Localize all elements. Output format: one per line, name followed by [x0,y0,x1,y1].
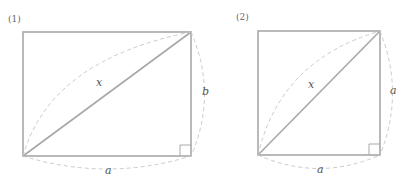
side-label-1: b [202,85,209,98]
bottom-label-1: a [105,164,112,177]
diagonal-label-2: x [308,78,315,91]
right-angle-marker-1 [180,145,191,156]
right-angle-marker-2 [369,144,380,155]
side-label-2: a [390,84,397,97]
diagonal-1 [23,32,191,156]
diagonal-label-1: x [96,76,103,89]
figure-2-number: (2) [236,12,249,22]
bottom-label-2: a [317,163,324,176]
diagonal-2 [258,31,380,155]
figure-2: (2) x a a [236,12,397,176]
figure-1: (1) x a b [8,14,209,177]
diagram-canvas: (1) x a b (2) x a a [0,0,417,187]
figure-1-number: (1) [8,14,21,24]
